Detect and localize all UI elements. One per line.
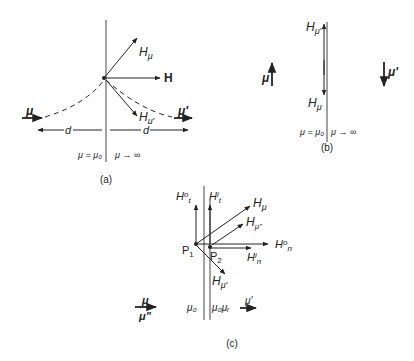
label-d-left: d [65,124,72,136]
label-p2: P2 [210,250,222,265]
label-h0n: Hon [275,238,292,253]
label-hit: Hit [209,190,222,205]
label-h-mu-prime-b: Hμ' [306,20,322,36]
label-medium-left-c: μ₀ [186,302,197,313]
label-mu-prime-b: μ' [387,65,399,79]
label-mu-prime-c: μ' [244,295,253,306]
label-h-mu-dd: Hμ" [246,215,263,231]
label-h: H [164,71,173,85]
label-medium-left-b: μ = μ₀ [299,127,324,137]
panel-a: Hμ H Hμ' μ μ' d d μ = μ₀ μ → ∞ (a) [22,20,192,185]
label-h-mu-c: Hμ [253,196,267,212]
label-mu: μ [25,104,34,118]
label-d-right: d [143,124,150,136]
label-medium-right-b: μ → ∞ [330,127,356,137]
diagram-canvas: Hμ H Hμ' μ μ' d d μ = μ₀ μ → ∞ (a) Hμ' H… [0,0,414,361]
label-medium-right-c: μ₀μᵣ [211,302,230,313]
label-mu-b: μ [261,71,270,85]
label-h-mu-b: Hμ [308,96,322,112]
label-h0t: Hot [176,190,191,205]
label-mu-dd: μ" [138,310,152,322]
caption-c: (c) [226,338,238,349]
label-hin: Hin [247,251,262,266]
label-medium-left: μ = μ₀ [77,150,102,160]
label-mu-c: μ [141,294,149,306]
label-mu-prime: μ' [177,104,189,118]
panel-c: Hot Hit Hμ Hμ" Hon Hin P1 P2 Hμ' μ μ" μ₀… [135,186,292,349]
caption-a: (a) [100,174,112,185]
label-h-mu: Hμ [139,45,153,61]
label-p1: P1 [182,244,194,259]
label-medium-right: μ → ∞ [114,150,140,160]
label-h-mu-prime-c: Hμ' [212,274,228,290]
caption-b: (b) [321,142,333,153]
panel-b: Hμ' Hμ μ μ' μ = μ₀ μ → ∞ (b) [261,20,399,153]
